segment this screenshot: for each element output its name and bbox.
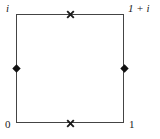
cross-icon-top-edge <box>66 10 75 19</box>
vertex-label-bottom-right: 1 <box>129 119 135 130</box>
cross-icon-bottom-edge <box>66 119 75 128</box>
diamond-icon-left-edge <box>12 64 21 73</box>
unit-square-outline <box>16 14 124 123</box>
diamond-icon-right-edge <box>120 64 129 73</box>
vertex-label-bottom-left: 0 <box>5 119 11 130</box>
complex-plane-square-figure: i 1 + i 0 1 <box>0 0 160 139</box>
vertex-label-top-left: i <box>6 3 9 14</box>
vertex-label-top-right: 1 + i <box>128 3 149 14</box>
